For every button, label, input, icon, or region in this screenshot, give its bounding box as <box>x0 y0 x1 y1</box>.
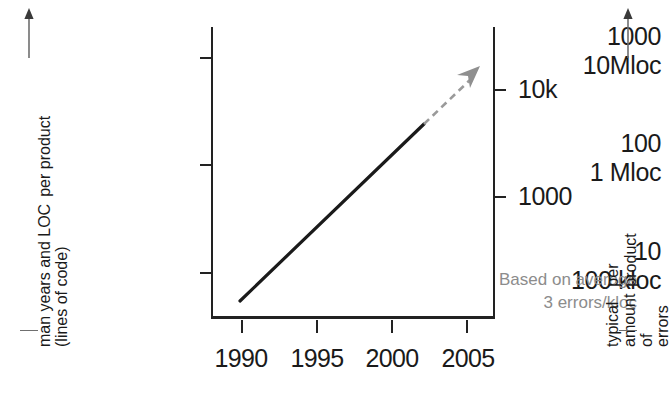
x-tick-mark <box>391 320 393 333</box>
up-arrow-icon <box>619 8 637 58</box>
right-axis-title-main: errors <box>655 305 672 347</box>
x-tick-label-1995: 1995 <box>290 344 343 373</box>
right-axis-title-suffix: per product <box>604 233 640 286</box>
x-tick-label-2005: 2005 <box>441 344 494 373</box>
up-arrow-icon <box>20 8 38 58</box>
left-axis-title-suffix: per product <box>36 116 54 197</box>
right-tick-mark <box>494 89 506 91</box>
right-axis-baseline-rule <box>619 330 637 331</box>
left-axis-title-main: man years and LOC <box>37 204 54 347</box>
x-tick-label-2000: 2000 <box>365 344 418 373</box>
x-tick-mark <box>466 320 468 333</box>
left-axis-title-stack: man years and LOC (lines of code) <box>37 204 71 347</box>
plot-area <box>211 27 495 319</box>
left-axis-title-paren: (lines of code) <box>54 247 71 348</box>
left-axis-title: man years and LOC (lines of code) per pr… <box>36 116 71 347</box>
right-tick-mark <box>494 196 506 198</box>
right-tick-label-10k: 10k <box>518 75 557 104</box>
x-tick-label-1990: 1990 <box>214 344 267 373</box>
x-tick-mark <box>316 320 318 333</box>
x-tick-mark <box>241 320 243 333</box>
right-axis-title-stack: typical amount of errors <box>605 294 672 347</box>
right-axis-title: typical amount of errors per product <box>604 233 672 347</box>
left-axis-baseline-rule <box>20 330 38 331</box>
right-axis-title-prefix: typical amount of <box>605 294 655 347</box>
right-tick-label-1000: 1000 <box>518 182 572 211</box>
